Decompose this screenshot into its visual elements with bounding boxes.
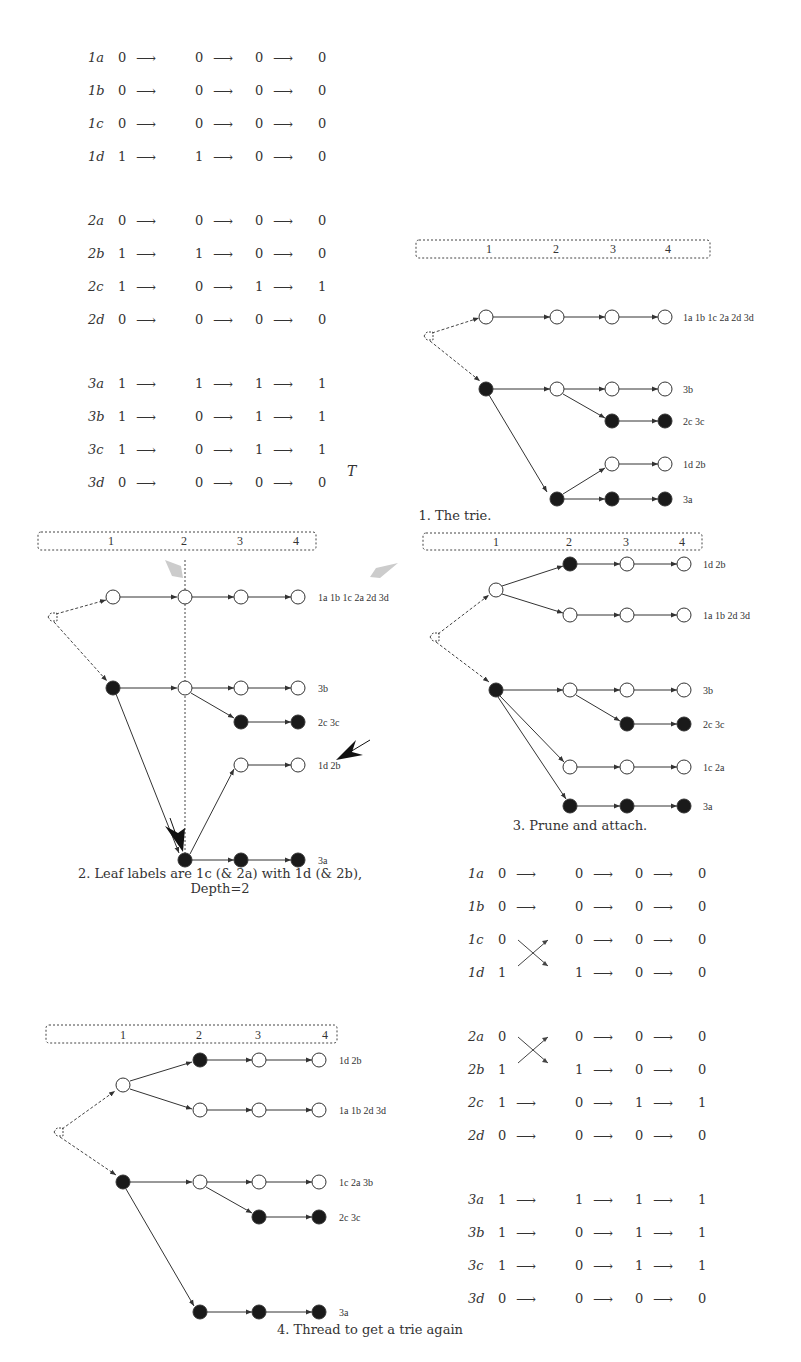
leaf-label: 3a [339, 1307, 349, 1318]
svg-text:4: 4 [322, 1028, 328, 1042]
panel-4-diagram: 1 2 3 4 1d 2b 1a 1b 2d 3d 1c 2a 3b [0, 0, 801, 1362]
leaf-label: 2c 3c [339, 1212, 361, 1223]
leaf-label: 1a 1b 2d 3d [339, 1105, 386, 1116]
leaf-label: 1d 2b [339, 1055, 362, 1066]
leaf-label: 1c 2a 3b [339, 1177, 373, 1188]
svg-text:1: 1 [120, 1028, 126, 1042]
panel-4-caption: 4. Thread to get a trie again [250, 1322, 490, 1337]
svg-text:3: 3 [255, 1028, 261, 1042]
svg-text:2: 2 [196, 1028, 202, 1042]
